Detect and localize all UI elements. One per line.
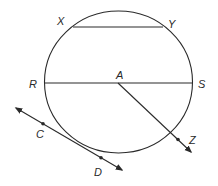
label-z: Z	[188, 134, 197, 146]
ray-az	[118, 83, 191, 152]
point-d	[99, 156, 103, 160]
label-x: X	[56, 15, 65, 27]
label-c: C	[36, 128, 44, 140]
tangent-line-cd	[16, 108, 122, 170]
label-y: Y	[168, 18, 176, 30]
label-d: D	[94, 166, 102, 178]
point-c	[41, 122, 45, 126]
label-r: R	[29, 78, 37, 90]
point-z	[176, 138, 180, 142]
geometry-diagram: X Y R A S C D Z	[0, 0, 218, 186]
label-a: A	[115, 69, 123, 81]
label-s: S	[198, 78, 206, 90]
